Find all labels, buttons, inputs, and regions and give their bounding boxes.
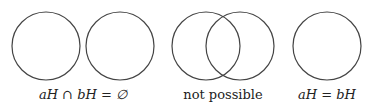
- coset-circle-ah: [12, 12, 80, 80]
- label-disjoint: aH ∩ bH = ∅: [23, 86, 143, 104]
- label-not-possible: not possible: [173, 86, 273, 104]
- panel-overlapping: [172, 12, 274, 80]
- panel-equal: [293, 12, 361, 80]
- coset-circle-bh: [86, 12, 154, 80]
- label-equal: aH = bH: [287, 86, 367, 104]
- coset-circle-ah-bh: [293, 12, 361, 80]
- panel-disjoint: [12, 12, 154, 80]
